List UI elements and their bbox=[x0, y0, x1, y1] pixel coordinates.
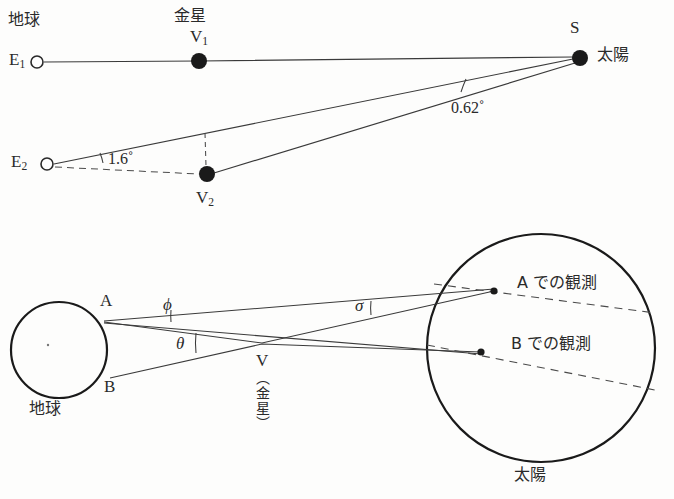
top-earth-heading: 地球 bbox=[8, 12, 40, 28]
label-venus-1-letter: V bbox=[190, 27, 202, 46]
label-venus-1: V1 bbox=[190, 28, 208, 48]
marker-venus-2 bbox=[199, 166, 215, 182]
observation-dot-b bbox=[477, 348, 484, 355]
label-venus-point-bottom: V bbox=[256, 352, 268, 369]
sightline-e2-to-sun bbox=[54, 59, 573, 164]
marker-earth-2 bbox=[41, 158, 53, 170]
label-earth-1-subscript: 1 bbox=[19, 58, 25, 71]
dashed-perpendicular-at-v2 bbox=[205, 133, 206, 166]
label-venus-1-subscript: 1 bbox=[202, 35, 208, 48]
top-sun-label: 太陽 bbox=[597, 47, 629, 63]
label-venus-2: V2 bbox=[196, 189, 214, 209]
marker-sun-top bbox=[572, 50, 588, 66]
label-site-b: B bbox=[104, 378, 115, 395]
bottom-sun-label: 太陽 bbox=[514, 467, 546, 483]
sightline-v2-to-sun bbox=[214, 63, 575, 173]
label-site-a: A bbox=[100, 292, 112, 309]
angle-label-sigma: σ bbox=[355, 297, 363, 314]
label-earth-1: E1 bbox=[9, 51, 25, 71]
observation-dot-a bbox=[490, 287, 497, 294]
marker-venus-1 bbox=[191, 53, 207, 69]
angle-label-phi: ϕ bbox=[163, 296, 172, 313]
marker-earth-1 bbox=[31, 56, 43, 68]
top-venus-heading: 金星 bbox=[174, 8, 206, 24]
label-earth-2-subscript: 2 bbox=[21, 160, 27, 173]
label-venus-2-subscript: 2 bbox=[208, 196, 214, 209]
label-earth-2-letter: E bbox=[11, 152, 21, 171]
sightline-e1-v1-sun bbox=[44, 57, 573, 62]
label-sun-point: S bbox=[570, 19, 579, 36]
label-observation-a: A での観測 bbox=[517, 275, 597, 291]
label-earth-2: E2 bbox=[11, 153, 27, 173]
label-observation-b: B での観測 bbox=[511, 336, 591, 352]
bottom-earth-label: 地球 bbox=[29, 401, 61, 417]
dashed-baseline-e2-v2 bbox=[55, 167, 199, 174]
label-earth-1-letter: E bbox=[9, 50, 19, 69]
ray-a-to-sun-lower bbox=[104, 323, 481, 354]
label-venus-2-letter: V bbox=[196, 188, 208, 207]
angle-label-theta: θ bbox=[176, 335, 184, 352]
figure-root: 地球 金星 E1 V1 S 太陽 E2 V2 1.6˚ 0.62˚ A B ϕ … bbox=[0, 0, 674, 499]
earth-circle bbox=[11, 302, 107, 398]
venus-transit-diagram bbox=[0, 0, 674, 499]
angle-arc-theta bbox=[195, 333, 196, 353]
angle-label-0p62-degrees: 0.62˚ bbox=[451, 100, 484, 116]
earth-center-dot bbox=[47, 344, 49, 346]
label-venus-paren-vertical: （金星） bbox=[255, 371, 269, 431]
angle-label-1p6-degrees: 1.6˚ bbox=[108, 151, 133, 167]
